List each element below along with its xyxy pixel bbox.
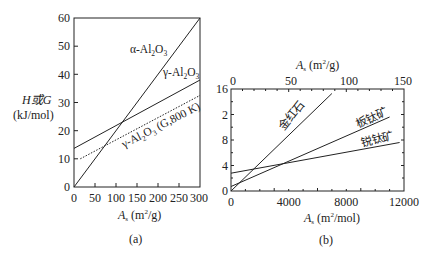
series-rutile-label: 金红石 xyxy=(275,98,306,132)
series-anatase-label: 锐钛矿 xyxy=(359,128,394,149)
chart-b: 0 4 8 2 16 0 4000 8000 12000 0 50 100 15… xyxy=(216,58,419,247)
svg-text:16: 16 xyxy=(216,82,228,96)
chart-a: 0 10 20 30 40 50 60 0 50 100 150 200 250… xyxy=(13,11,208,246)
chart-a-xlabel: As(m2/g) xyxy=(117,208,161,223)
svg-text:100: 100 xyxy=(340,74,358,88)
figure: 0 10 20 30 40 50 60 0 50 100 150 200 250… xyxy=(0,0,432,257)
svg-text:10: 10 xyxy=(58,152,70,166)
chart-a-ylabel-line1: H或G xyxy=(21,93,52,107)
svg-text:0: 0 xyxy=(64,180,70,194)
svg-text:150: 150 xyxy=(128,191,146,205)
svg-text:150: 150 xyxy=(394,74,412,88)
svg-text:0: 0 xyxy=(228,195,234,209)
chart-b-caption: (b) xyxy=(319,233,333,247)
chart-b-x-tick-labels: 0 4000 8000 12000 xyxy=(228,195,419,209)
svg-text:2: 2 xyxy=(222,108,228,122)
series-rutile-line xyxy=(231,94,332,192)
svg-text:30: 30 xyxy=(58,96,70,110)
svg-text:300: 300 xyxy=(190,191,208,205)
chart-a-y-ticks xyxy=(74,46,78,159)
chart-a-y-tick-labels: 0 10 20 30 40 50 60 xyxy=(58,11,70,194)
series-gamma-al2o3-label: γ-Al2O3 xyxy=(162,66,199,81)
svg-text:250: 250 xyxy=(170,191,188,205)
chart-b-y-tick-labels: 0 4 8 2 16 xyxy=(216,82,228,198)
svg-text:50: 50 xyxy=(89,191,101,205)
svg-text:0: 0 xyxy=(71,191,77,205)
svg-text:4: 4 xyxy=(222,159,228,173)
chart-b-top-xlabel: As(m2/g) xyxy=(295,58,339,73)
svg-text:50: 50 xyxy=(285,74,297,88)
chart-b-top-x-tick-labels: 0 50 100 150 xyxy=(230,74,412,88)
chart-b-xlabel: As(m2/mol) xyxy=(303,211,360,226)
svg-text:8: 8 xyxy=(222,133,228,147)
svg-text:50: 50 xyxy=(58,39,70,53)
svg-text:60: 60 xyxy=(58,11,70,25)
series-gamma-al2o3-g800k-label: γ-Al2O3 (G,800 K) xyxy=(119,100,204,153)
chart-a-x-tick-labels: 0 50 100 150 200 250 300 xyxy=(71,191,208,205)
svg-text:8000: 8000 xyxy=(334,195,358,209)
svg-text:20: 20 xyxy=(58,124,70,138)
svg-text:12000: 12000 xyxy=(389,195,419,209)
svg-text:0: 0 xyxy=(230,74,236,88)
series-brookite-line xyxy=(231,117,390,187)
svg-text:100: 100 xyxy=(107,191,125,205)
series-gamma-al2o3-g800k-line xyxy=(80,95,200,158)
svg-text:4000: 4000 xyxy=(277,195,301,209)
chart-a-x-ticks xyxy=(95,183,179,187)
series-alpha-al2o3-label: α-Al2O3 xyxy=(130,43,167,58)
series-brookite-label: 板钛矿 xyxy=(354,105,389,130)
chart-a-ylabel-line2: (kJ/mol) xyxy=(13,108,54,122)
series-anatase-line xyxy=(231,143,400,174)
chart-a-caption: (a) xyxy=(129,232,142,246)
svg-text:200: 200 xyxy=(149,191,167,205)
svg-text:40: 40 xyxy=(58,68,70,82)
